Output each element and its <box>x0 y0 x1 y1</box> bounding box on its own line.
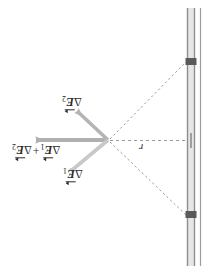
e-symbol-2: E <box>16 143 24 157</box>
upper-slit <box>186 58 197 65</box>
label-distance-r: r <box>139 142 143 153</box>
field-superposition-figure: ΔE2 ΔE1 ΔE1+ΔE2 r <box>0 0 213 272</box>
plus-operator: + <box>32 143 41 157</box>
e-symbol-1: E <box>44 143 52 157</box>
ray-to-upper-slit <box>110 62 186 139</box>
slit-barrier <box>186 8 201 266</box>
e-symbol: E <box>67 167 75 181</box>
label-resultant-sum: ΔE1+ΔE2 <box>12 142 60 156</box>
vector-group <box>36 111 108 171</box>
ray-to-lower-slit <box>110 142 186 215</box>
diagram-canvas <box>0 0 213 272</box>
label-delta-e2: ΔE2 <box>62 94 82 108</box>
delta-symbol-2: Δ <box>24 143 32 157</box>
label-delta-e1: ΔE1 <box>63 166 83 180</box>
lower-slit <box>186 211 197 218</box>
delta-e2-vector <box>77 111 108 140</box>
delta-symbol: Δ <box>74 95 82 109</box>
distance-symbol: r <box>139 142 143 154</box>
delta-symbol: Δ <box>75 167 83 181</box>
delta-symbol-1: Δ <box>52 143 60 157</box>
ray-group <box>110 62 190 215</box>
e-symbol: E <box>66 95 74 109</box>
